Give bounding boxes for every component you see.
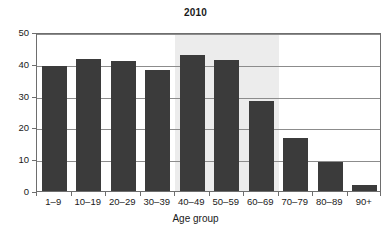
- y-tick-label-0: 0: [0, 187, 29, 197]
- y-tick-label-10: 10: [0, 155, 29, 165]
- bar-50-59[interactable]: [214, 60, 239, 191]
- y-tick-label-30: 30: [0, 92, 29, 102]
- y-tick-label-20: 20: [0, 123, 29, 133]
- bar-40-49[interactable]: [180, 55, 205, 191]
- x-tick-mark-8: [312, 192, 313, 196]
- bar-1-9[interactable]: [42, 66, 67, 191]
- x-tick-mark-6: [243, 192, 244, 196]
- x-tick-mark-0: [36, 192, 37, 196]
- chart-title: 2010: [0, 7, 391, 18]
- x-tick-mark-1: [71, 192, 72, 196]
- x-tick-mark-2: [105, 192, 106, 196]
- bar-90+[interactable]: [352, 185, 377, 191]
- x-axis-title: Age group: [0, 213, 391, 224]
- bar-30-39[interactable]: [145, 70, 170, 191]
- x-tick-mark-5: [209, 192, 210, 196]
- x-axis: 1–910–1920–2930–3940–4950–5960–6970–7980…: [36, 192, 381, 212]
- bar-20-29[interactable]: [111, 61, 136, 191]
- plot-area: [36, 33, 381, 192]
- y-tick-label-50: 50: [0, 28, 29, 38]
- bar-chart-figure: 2010 01020304050 1–910–1920–2930–3940–49…: [0, 0, 391, 241]
- bar-80-89[interactable]: [318, 162, 343, 191]
- y-axis: 01020304050: [0, 33, 36, 192]
- bar-60-69[interactable]: [249, 101, 274, 191]
- x-tick-mark-4: [174, 192, 175, 196]
- x-tick-mark-10: [380, 192, 381, 196]
- x-tick-mark-3: [140, 192, 141, 196]
- x-tick-mark-7: [278, 192, 279, 196]
- bar-70-79[interactable]: [283, 138, 308, 191]
- gridline-50: [37, 34, 380, 35]
- x-tick-mark-9: [347, 192, 348, 196]
- x-tick-label-90+: 90+: [343, 197, 386, 207]
- y-tick-label-40: 40: [0, 60, 29, 70]
- bar-10-19[interactable]: [76, 59, 101, 191]
